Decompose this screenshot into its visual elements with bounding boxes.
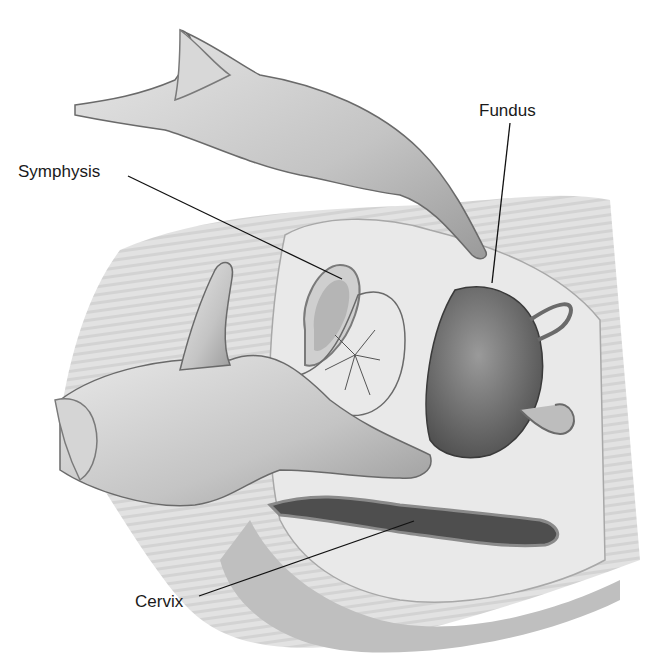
label-cervix: Cervix [135,593,183,610]
pelvic-exam-illustration [0,0,648,672]
label-symphysis: Symphysis [18,163,100,180]
label-fundus: Fundus [479,102,536,119]
